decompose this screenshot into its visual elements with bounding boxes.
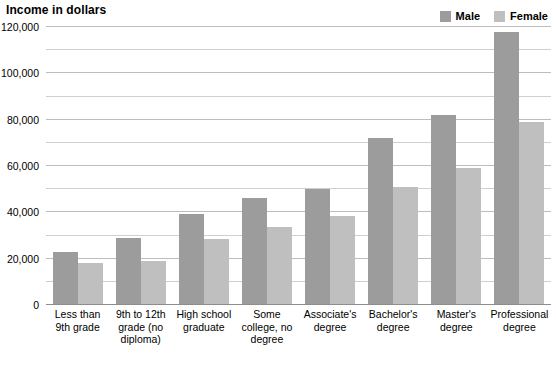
x-axis-label-line: 9th grade [48, 321, 107, 334]
legend-swatch-icon-female [494, 11, 505, 22]
bar-female[interactable] [330, 216, 355, 305]
x-axis-label-line: degree [427, 321, 486, 334]
bar-group [299, 27, 362, 305]
x-axis-label: High schoolgraduate [172, 308, 235, 346]
bar-male[interactable] [368, 138, 393, 305]
income-by-education-bar-chart: Income in dollars MaleFemale 020,00040,0… [0, 0, 556, 365]
x-axis-label-line: High school [174, 308, 233, 321]
bar-male[interactable] [431, 115, 456, 305]
x-axis-label: Less than9th grade [46, 308, 109, 346]
x-axis-label: 9th to 12thgrade (nodiploma) [109, 308, 172, 346]
bar-female[interactable] [141, 261, 166, 305]
legend-entry-male[interactable]: Male [440, 10, 480, 22]
plot-area: 020,00040,00060,00080,000100,000120,000 [46, 27, 551, 305]
bar-male[interactable] [305, 189, 330, 305]
x-axis-label-line: degree [237, 333, 296, 346]
x-axis-label-line: Less than [48, 308, 107, 321]
x-axis-label-line: Master's [427, 308, 486, 321]
y-axis-tick-label: 80,000 [0, 114, 39, 126]
y-axis-tick-label: 20,000 [0, 253, 39, 265]
x-axis-label-line: 9th to 12th [111, 308, 170, 321]
x-axis-label-line: degree [301, 321, 360, 334]
chart-legend: MaleFemale [440, 10, 548, 22]
bar-female[interactable] [519, 122, 544, 305]
y-axis-tick-label: 100,000 [0, 67, 39, 79]
x-axis-labels: Less than9th grade9th to 12thgrade (nodi… [46, 308, 551, 346]
bar-group [362, 27, 425, 305]
x-axis-label-line: diploma) [111, 333, 170, 346]
x-axis-label: Somecollege, nodegree [235, 308, 298, 346]
bar-female[interactable] [204, 239, 229, 305]
x-axis-label-line: Professional [490, 308, 549, 321]
bar-group [109, 27, 172, 305]
bars-layer [46, 27, 551, 305]
bar-female[interactable] [78, 263, 103, 305]
bar-male[interactable] [242, 198, 267, 305]
bar-group [425, 27, 488, 305]
bar-group [46, 27, 109, 305]
x-axis-label-line: Some [237, 308, 296, 321]
legend-label-female: Female [510, 10, 548, 22]
legend-entry-female[interactable]: Female [494, 10, 548, 22]
x-axis-label: Associate'sdegree [299, 308, 362, 346]
y-axis-tick-label: 60,000 [0, 160, 39, 172]
x-axis-baseline [46, 304, 551, 305]
y-axis-tick-label: 0 [0, 299, 39, 311]
legend-label-male: Male [456, 10, 480, 22]
bar-female[interactable] [267, 227, 292, 305]
x-axis-label-line: college, no [237, 321, 296, 334]
x-axis-label-line: graduate [174, 321, 233, 334]
bar-group [235, 27, 298, 305]
chart-title: Income in dollars [6, 3, 106, 17]
bar-group [172, 27, 235, 305]
legend-swatch-icon-male [440, 11, 451, 22]
bar-male[interactable] [494, 32, 519, 305]
bar-male[interactable] [116, 238, 141, 305]
x-axis-label-line: degree [364, 321, 423, 334]
y-axis-tick-label: 40,000 [0, 206, 39, 218]
x-axis-label-line: grade (no [111, 321, 170, 334]
x-axis-label: Master'sdegree [425, 308, 488, 346]
x-axis-label: Bachelor'sdegree [362, 308, 425, 346]
y-axis-tick-label: 120,000 [0, 21, 39, 33]
bar-male[interactable] [53, 252, 78, 305]
bar-female[interactable] [456, 168, 481, 305]
x-axis-label-line: Bachelor's [364, 308, 423, 321]
x-axis-label-line: Associate's [301, 308, 360, 321]
bar-male[interactable] [179, 214, 204, 306]
x-axis-label: Professionaldegree [488, 308, 551, 346]
bar-group [488, 27, 551, 305]
x-axis-label-line: degree [490, 321, 549, 334]
bar-female[interactable] [393, 187, 418, 305]
